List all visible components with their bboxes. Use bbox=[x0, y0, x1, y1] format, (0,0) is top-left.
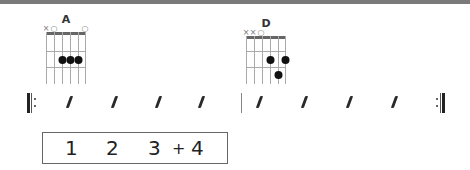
beat-slash bbox=[155, 96, 162, 108]
count-1: 1 bbox=[65, 136, 78, 160]
chord-grid-a bbox=[44, 32, 90, 86]
count-and: + bbox=[172, 139, 185, 158]
beat-slash bbox=[301, 96, 308, 108]
beat-slash bbox=[198, 96, 205, 108]
count-4: 4 bbox=[191, 136, 204, 160]
beat-slash bbox=[111, 96, 118, 108]
finger-dot bbox=[75, 56, 83, 64]
finger-dot bbox=[282, 56, 290, 64]
chord-grid-d bbox=[244, 36, 290, 86]
finger-dot bbox=[267, 56, 275, 64]
beat-slash bbox=[391, 96, 398, 108]
beat-slash bbox=[346, 96, 353, 108]
finger-dot bbox=[59, 56, 67, 64]
count-3: 3 bbox=[148, 136, 161, 160]
barline bbox=[241, 93, 242, 113]
beat-slash bbox=[256, 96, 263, 108]
count-2: 2 bbox=[106, 136, 119, 160]
finger-dot bbox=[67, 56, 75, 64]
top-border-band bbox=[0, 0, 470, 4]
finger-dot bbox=[275, 71, 283, 79]
beat-slash bbox=[66, 96, 73, 108]
